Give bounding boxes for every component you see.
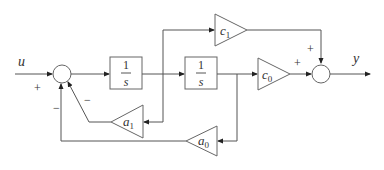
integrator-2-block: 1 s [185,57,217,89]
gain-c1: c1 [215,14,247,46]
svg-text:s: s [199,75,204,89]
svg-text:1: 1 [198,58,204,72]
sign-a1-minus: − [84,93,91,107]
input-label: u [18,54,25,69]
summing-junction-2 [312,65,330,83]
gain-c0: c0 [258,58,290,90]
sign-a0-minus: − [53,101,60,115]
gain-a1: a1 [111,105,143,138]
sign-input-plus: + [34,81,41,95]
sign-c0-plus: + [294,56,301,70]
svg-text:1: 1 [123,58,129,72]
output-label: y [351,51,360,66]
gain-a0: a0 [186,126,217,156]
block-diagram: u + 1 s 1 s c1 + c0 + y a1 − [0,0,384,170]
summing-junction-1 [53,65,71,83]
svg-text:s: s [124,75,129,89]
integrator-1-block: 1 s [110,57,142,89]
sign-c1-plus: + [307,42,314,56]
